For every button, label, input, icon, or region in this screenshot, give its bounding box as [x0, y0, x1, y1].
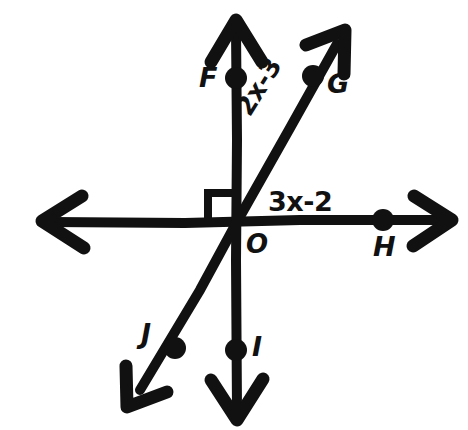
- point-dot-J: [164, 337, 186, 359]
- angle-expression-lower: 3x-2: [268, 188, 332, 215]
- point-dot-I: [225, 339, 247, 361]
- point-label-H: H: [373, 233, 396, 260]
- point-label-F: F: [199, 64, 217, 91]
- point-label-O: O: [246, 231, 268, 257]
- point-label-J: J: [141, 320, 151, 347]
- diagram-canvas: [0, 0, 468, 430]
- geometry-diagram: F G H I J O 2x-3 3x-2: [0, 0, 468, 430]
- point-label-G: G: [327, 70, 349, 97]
- point-dot-H: [372, 209, 394, 231]
- point-label-I: I: [252, 333, 262, 360]
- point-dot-G: [302, 65, 324, 87]
